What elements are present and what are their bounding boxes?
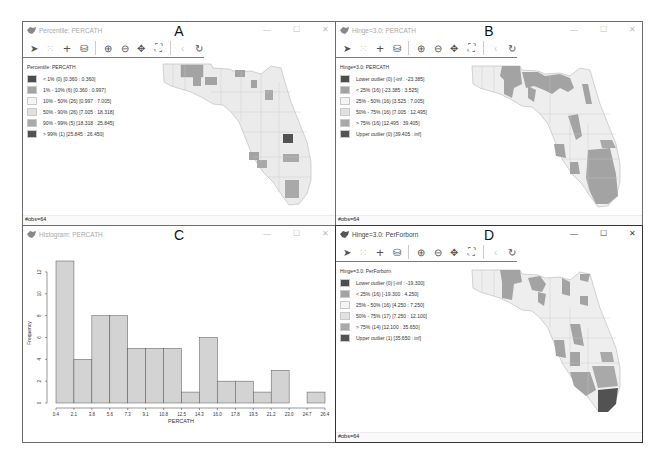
crosshair-plus-icon[interactable]: + [375,247,385,257]
titlebar[interactable]: Hinge=3.0: PERCATH B — ☐ ✕ [336,22,642,39]
svg-text:0: 0 [37,401,42,404]
legend-item[interactable]: 10% - 50% (26) [0.997 : 7.005] [27,95,114,106]
pan-icon[interactable]: ✥ [137,43,147,53]
refresh-icon[interactable]: ↻ [507,247,517,257]
histogram-chart[interactable]: 024681012 0.42.13.85.67.39.110.812.514.3… [23,243,335,443]
back-icon[interactable]: ‹ [178,43,188,53]
zoom-in-icon[interactable]: ⊕ [103,43,113,53]
window-percentile-percath[interactable]: Percentile: PERCATH A — ☐ ✕ ➤ ⁙ + ⛁ ⊕ ⊖ … [22,21,336,226]
back-icon[interactable]: ‹ [491,247,501,257]
brush-icon[interactable]: ⁙ [46,43,56,53]
maximize-button[interactable]: ☐ [293,229,300,238]
legend-item[interactable]: < 1% (0) [0.360 : 0.360] [27,73,114,84]
maximize-button[interactable]: ☐ [600,229,607,238]
legend-item[interactable]: > 75% (14) [12.100 : 35.650] [340,321,427,332]
histogram-bar[interactable] [110,316,128,403]
legend-item[interactable]: 25% - 50% (16) [3.525 : 7.005] [340,95,427,106]
refresh-icon[interactable]: ↻ [507,43,517,53]
zoom-out-icon[interactable]: ⊖ [433,247,443,257]
close-button[interactable]: ✕ [629,229,636,238]
brush-icon[interactable]: ⁙ [359,43,369,53]
svg-text:12.5: 12.5 [177,412,186,417]
legend-item[interactable]: Lower outlier (0) [-inf : -19.300] [340,277,427,288]
fit-extent-icon[interactable]: ⛶ [153,43,163,53]
legend-swatch [340,290,350,298]
histogram-bar[interactable] [217,381,235,403]
legend-item[interactable]: 50% - 75% (16) [7.005 : 12.495] [340,106,427,117]
svg-text:9.1: 9.1 [143,412,150,417]
select-arrow-icon[interactable]: ➤ [29,43,39,53]
legend-label: 50% - 75% (16) [7.005 : 12.495] [356,109,427,115]
pan-icon[interactable]: ✥ [450,43,460,53]
legend-item[interactable]: 90% - 99% (5) [18.318 : 25.845] [27,117,114,128]
refresh-icon[interactable]: ↻ [194,43,204,53]
histogram-bar[interactable] [56,261,74,403]
florida-choropleth-map[interactable] [470,64,630,214]
maximize-button[interactable]: ☐ [293,25,300,34]
histogram-bar[interactable] [92,316,110,403]
titlebar[interactable]: Histogram: PERCATH C — ☐ ✕ [23,226,335,243]
legend-swatch [27,75,37,83]
legend-title: Percentile: PERCATH [27,64,114,70]
window-hinge-percath[interactable]: Hinge=3.0: PERCATH B — ☐ ✕ ➤ ⁙ + ⛁ ⊕ ⊖ ✥… [335,21,643,226]
histogram-bar[interactable] [271,370,289,403]
legend-item[interactable]: 1% - 10% (6) [0.360 : 0.997] [27,84,114,95]
fit-extent-icon[interactable]: ⛶ [466,247,476,257]
back-icon[interactable]: ‹ [491,43,501,53]
legend-item[interactable]: Upper outlier (0) [39.405 : inf] [340,128,427,139]
titlebar[interactable]: Hinge=3.0: PerForborn D — ☐ ✕ [336,226,642,243]
legend-item[interactable]: Lower outlier (0) [-inf : -23.385] [340,73,427,84]
minimize-button[interactable]: — [263,25,271,34]
legend-swatch [340,108,350,116]
fit-extent-icon[interactable]: ⛶ [466,43,476,53]
window-hinge-perforborn[interactable]: Hinge=3.0: PerForborn D — ☐ ✕ ➤ ⁙ + ⛁ ⊕ … [335,225,643,443]
minimize-button[interactable]: — [570,25,578,34]
histogram-bar[interactable] [182,392,200,403]
close-button[interactable]: ✕ [322,229,329,238]
svg-text:3.8: 3.8 [89,412,96,417]
zoom-out-icon[interactable]: ⊖ [433,43,443,53]
crosshair-plus-icon[interactable]: + [62,43,72,53]
histogram-bar[interactable] [164,348,182,403]
select-arrow-icon[interactable]: ➤ [342,43,352,53]
legend-item[interactable]: Upper outlier (1) [35.650 : inf] [340,332,427,343]
legend-item[interactable]: < 25% (16) [-23.385 : 3.525] [340,84,427,95]
window-title: Histogram: PERCATH [39,231,103,238]
legend-item[interactable]: 25% - 50% (16) [4.250 : 7.250] [340,299,427,310]
select-arrow-icon[interactable]: ➤ [342,247,352,257]
zoom-out-icon[interactable]: ⊖ [120,43,130,53]
crosshair-plus-icon[interactable]: + [375,43,385,53]
legend-item[interactable]: < 25% (16) [-19.300 : 4.250] [340,288,427,299]
legend-item[interactable]: > 75% (16) [12.495 : 39.405] [340,117,427,128]
layers-icon[interactable]: ⛁ [79,43,89,53]
maximize-button[interactable]: ☐ [600,25,607,34]
window-histogram-percath[interactable]: Histogram: PERCATH C — ☐ ✕ 024681012 0.4… [22,225,336,443]
minimize-button[interactable]: — [570,229,578,238]
legend-label: 50% - 90% (26) [7.005 : 18.318] [43,109,114,115]
titlebar[interactable]: Percentile: PERCATH A — ☐ ✕ [23,22,335,39]
florida-choropleth-map[interactable] [161,62,321,212]
florida-choropleth-map[interactable] [470,268,630,423]
histogram-bar[interactable] [307,392,325,403]
layers-icon[interactable]: ⛁ [392,247,402,257]
histogram-bar[interactable] [74,359,92,403]
histogram-bar[interactable] [253,392,271,403]
histogram-bars[interactable] [56,261,325,403]
histogram-bar[interactable] [146,348,164,403]
svg-text:8: 8 [37,314,42,317]
close-button[interactable]: ✕ [629,25,636,34]
zoom-in-icon[interactable]: ⊕ [416,247,426,257]
layers-icon[interactable]: ⛁ [392,43,402,53]
histogram-bar[interactable] [235,381,253,403]
minimize-button[interactable]: — [263,229,271,238]
close-button[interactable]: ✕ [322,25,329,34]
histogram-bar[interactable] [128,348,146,403]
histogram-bar[interactable] [199,337,217,403]
zoom-in-icon[interactable]: ⊕ [416,43,426,53]
legend-item[interactable]: > 99% (1) [25.845 : 26.450] [27,128,114,139]
legend-item[interactable]: 50% - 90% (26) [7.005 : 18.318] [27,106,114,117]
window-title: Hinge=3.0: PerForborn [352,231,418,238]
legend-item[interactable]: 50% - 75% (17) [7.250 : 12.100] [340,310,427,321]
brush-icon[interactable]: ⁙ [359,247,369,257]
pan-icon[interactable]: ✥ [450,247,460,257]
